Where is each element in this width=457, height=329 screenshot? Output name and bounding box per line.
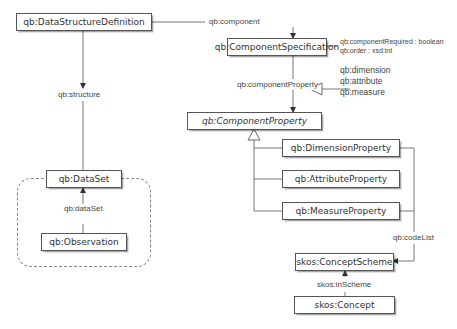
edge-label-structure: qb:structure	[58, 90, 100, 100]
attr-component-required: qb:componentRequired : boolean	[340, 37, 444, 46]
diagram-canvas: qb:DataStructureDefinition qb:component …	[0, 0, 457, 329]
node-component-specification[interactable]: qb:ComponentSpecification	[227, 38, 327, 56]
node-observation[interactable]: qb:Observation	[41, 233, 127, 251]
node-label: qb:ComponentSpecification	[215, 42, 340, 52]
node-measure-property[interactable]: qb:MeasureProperty	[282, 202, 400, 220]
subprop-dimension: qb:dimension	[340, 65, 391, 76]
attr-order: qb:order : xsd:int	[340, 46, 444, 55]
node-component-property[interactable]: qb:ComponentProperty	[187, 112, 322, 130]
subprop-measure: qb:measure	[340, 87, 391, 98]
node-concept[interactable]: skos:Concept	[294, 296, 395, 314]
node-label: qb:ComponentProperty	[202, 116, 307, 126]
node-label: qb:DataSet	[59, 174, 110, 184]
node-label: qb:DataStructureDefinition	[23, 17, 144, 27]
node-concept-scheme[interactable]: skos:ConceptScheme	[295, 253, 394, 271]
subproperty-list: qb:dimension qb:attribute qb:measure	[340, 65, 391, 98]
component-spec-attributes: qb:componentRequired : boolean qb:order …	[340, 37, 444, 55]
edge-label-code-list: qb:codeList	[393, 233, 434, 243]
dataset-group-dashed	[17, 178, 151, 267]
node-label: qb:Observation	[49, 237, 118, 247]
subprop-attribute: qb:attribute	[340, 76, 391, 87]
edge-label-dataset: qb:dataSet	[64, 204, 103, 214]
node-data-structure-definition[interactable]: qb:DataStructureDefinition	[16, 13, 152, 31]
node-label: qb:MeasureProperty	[296, 206, 387, 216]
edge-label-component: qb:component	[209, 17, 260, 27]
node-attribute-property[interactable]: qb:AttributeProperty	[282, 170, 400, 188]
node-label: skos:Concept	[314, 300, 374, 310]
node-label: skos:ConceptScheme	[296, 257, 392, 267]
node-label: qb:DimensionProperty	[291, 143, 391, 153]
edge-label-in-scheme: skos:inScheme	[317, 280, 371, 290]
node-dataset[interactable]: qb:DataSet	[46, 170, 122, 188]
node-label: qb:AttributeProperty	[295, 174, 387, 184]
edge-label-component-property: qb:componentProperty	[237, 80, 318, 90]
node-dimension-property[interactable]: qb:DimensionProperty	[282, 139, 400, 157]
